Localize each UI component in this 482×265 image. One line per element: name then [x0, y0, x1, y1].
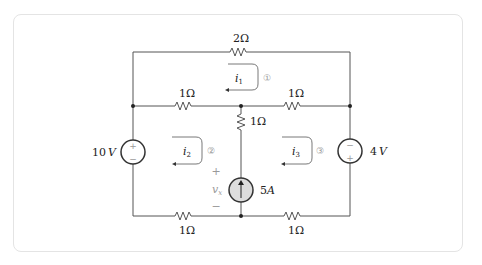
- plus-sign: +: [129, 141, 137, 151]
- center-vertical-resistor: [237, 106, 245, 178]
- node-left: [131, 104, 135, 108]
- arrow-left-icon: [172, 162, 176, 166]
- node-right: [348, 104, 352, 108]
- label-resistor-top: 2Ω: [233, 32, 249, 45]
- mid-right-resistor-wire: [241, 102, 350, 110]
- label-resistor-mid-left: 1Ω: [179, 87, 195, 100]
- label-i2: i2: [183, 145, 191, 159]
- label-resistor-center: 1Ω: [250, 115, 266, 128]
- label-vx: vx: [212, 183, 222, 197]
- arrow-left-icon: [281, 162, 285, 166]
- label-resistor-mid-right: 1Ω: [288, 87, 304, 100]
- vx-minus: −: [211, 200, 220, 213]
- current-source-5a: [229, 178, 253, 202]
- bottom-left-resistor-wire: [133, 212, 241, 220]
- bottom-right-resistor-wire: [241, 212, 350, 220]
- mid-left-resistor-wire: [133, 102, 241, 110]
- top-wire-2ohm-resistor: [133, 48, 350, 56]
- label-4v: 4V: [370, 145, 388, 158]
- plus-sign: +: [346, 153, 354, 163]
- minus-sign: −: [129, 154, 137, 164]
- mesh-marker-1: ①: [263, 73, 271, 83]
- mesh-marker-2: ②: [207, 146, 215, 156]
- voltage-source-10v: + −: [121, 140, 145, 164]
- node-center-top: [239, 104, 243, 108]
- mesh-loop-1: [228, 64, 258, 90]
- mesh-marker-3: ③: [316, 146, 324, 156]
- node-center-bottom: [239, 214, 243, 218]
- label-10v: 10V: [92, 146, 117, 159]
- label-5a: 5A: [260, 184, 275, 197]
- label-resistor-bottom-left: 1Ω: [179, 224, 195, 237]
- label-i1: i1: [235, 72, 243, 86]
- vx-plus: +: [211, 165, 220, 178]
- circuit-diagram: + − 10V − + 4V 5A 2Ω 1Ω 1Ω 1Ω 1Ω 1Ω i1 ①…: [0, 0, 482, 265]
- minus-sign: −: [346, 140, 354, 150]
- label-i3: i3: [292, 145, 300, 159]
- arrow-left-icon: [225, 88, 229, 92]
- voltage-source-4v: − +: [338, 139, 362, 163]
- label-resistor-bottom-right: 1Ω: [288, 224, 304, 237]
